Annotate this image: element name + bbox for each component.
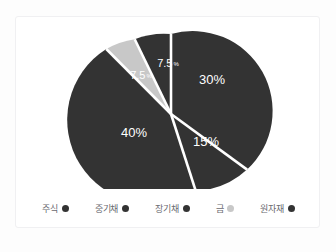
clipped-header-text: —— ——: [14, 0, 72, 4]
clipped-text-fragment-1: ——: [14, 0, 32, 4]
pie-label-long-bonds: 40%: [121, 125, 147, 140]
legend-swatch-mid-bonds: [122, 205, 129, 212]
pie-chart-svg: 30% 15% 40% 7.5% 7.5%: [16, 17, 321, 189]
legend-swatch-gold: [227, 205, 234, 212]
legend-label-stocks: 주식: [42, 202, 58, 215]
legend-label-commodities: 원자재: [260, 202, 283, 215]
legend-item-commodities[interactable]: 원자재: [260, 202, 294, 215]
pie-label-mid-bonds: 15%: [193, 134, 219, 149]
legend-item-stocks[interactable]: 주식: [42, 202, 69, 215]
pie-label-commodities-percent: %: [173, 61, 179, 67]
clipped-text-fragment-2: ——: [54, 0, 72, 4]
legend-swatch-stocks: [62, 205, 69, 212]
legend-label-gold: 금: [216, 202, 224, 215]
legend-item-gold[interactable]: 금: [216, 202, 235, 215]
legend-swatch-commodities: [288, 205, 295, 212]
legend-swatch-long-bonds: [183, 205, 190, 212]
pie-chart-area: 30% 15% 40% 7.5% 7.5%: [16, 17, 321, 189]
pie-chart-card: 30% 15% 40% 7.5% 7.5% 주식 중기채 장기채 금: [15, 16, 320, 228]
pie-label-gold-value: 7.5: [130, 69, 145, 81]
legend-item-mid-bonds[interactable]: 중기채: [95, 202, 129, 215]
legend-label-mid-bonds: 중기채: [95, 202, 118, 215]
legend-label-long-bonds: 장기채: [155, 202, 178, 215]
legend-item-long-bonds[interactable]: 장기채: [155, 202, 189, 215]
chart-legend: 주식 중기채 장기채 금 원자재: [16, 193, 321, 223]
pie-label-commodities-value: 7.5: [157, 57, 172, 69]
pie-label-stocks: 30%: [199, 72, 225, 87]
pie-label-gold-percent: %: [146, 73, 152, 79]
